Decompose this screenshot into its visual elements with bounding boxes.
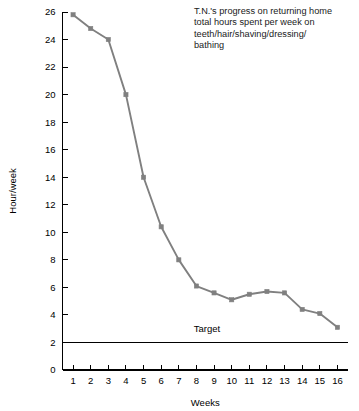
data-point-marker <box>318 311 322 315</box>
data-point-marker <box>265 289 269 293</box>
data-point-marker <box>89 26 93 30</box>
x-tick-label: 6 <box>159 375 164 386</box>
x-tick-label: 11 <box>244 375 254 386</box>
chart-container: 0246810121416182022242612345678910111213… <box>0 0 359 411</box>
x-tick-label: 14 <box>297 375 308 386</box>
data-point-marker <box>71 13 75 17</box>
annotation-line: teeth/hair/shaving/dressing/ <box>194 29 307 39</box>
target-label: Target <box>194 323 221 334</box>
data-point-marker <box>282 291 286 295</box>
data-point-marker <box>230 298 234 302</box>
data-point-marker <box>335 325 339 329</box>
y-tick-label: 2 <box>50 337 55 348</box>
y-tick-label: 6 <box>50 282 55 293</box>
data-point-marker <box>106 37 110 41</box>
x-tick-label: 5 <box>141 375 146 386</box>
x-tick-label: 12 <box>262 375 273 386</box>
x-tick-label: 8 <box>194 375 199 386</box>
x-tick-label: 3 <box>106 375 111 386</box>
x-tick-label: 7 <box>176 375 181 386</box>
y-axis-title: Hour/week <box>7 168 18 214</box>
data-point-marker <box>247 292 251 296</box>
x-tick-label: 1 <box>70 375 75 386</box>
y-tick-label: 8 <box>50 254 55 265</box>
y-tick-label: 0 <box>50 364 55 375</box>
y-tick-label: 26 <box>45 6 56 17</box>
x-tick-label: 16 <box>332 375 343 386</box>
series-line <box>73 15 337 328</box>
x-axis-title: Weeks <box>191 397 220 408</box>
data-point-marker <box>212 291 216 295</box>
data-point-marker <box>177 258 181 262</box>
y-tick-label: 20 <box>45 89 56 100</box>
data-point-marker <box>194 284 198 288</box>
annotation-line: bathing <box>194 40 224 50</box>
y-tick-label: 24 <box>45 34 56 45</box>
annotation-line: total hours spent per week on <box>194 17 315 27</box>
x-tick-label: 2 <box>88 375 93 386</box>
annotation-line: T.N.'s progress on returning home <box>194 6 332 16</box>
y-tick-label: 4 <box>50 309 55 320</box>
data-point-marker <box>141 175 145 179</box>
y-tick-label: 10 <box>45 227 56 238</box>
line-chart: 0246810121416182022242612345678910111213… <box>0 0 359 411</box>
y-tick-label: 18 <box>45 117 56 128</box>
data-point-marker <box>300 307 304 311</box>
y-tick-label: 16 <box>45 144 56 155</box>
x-tick-label: 10 <box>226 375 237 386</box>
x-tick-label: 15 <box>315 375 326 386</box>
y-tick-label: 14 <box>45 172 56 183</box>
x-tick-label: 9 <box>211 375 216 386</box>
y-tick-label: 12 <box>45 199 56 210</box>
x-tick-label: 4 <box>123 375 128 386</box>
y-tick-label: 22 <box>45 61 56 72</box>
x-tick-label: 13 <box>279 375 290 386</box>
data-point-marker <box>159 225 163 229</box>
data-point-marker <box>124 93 128 97</box>
